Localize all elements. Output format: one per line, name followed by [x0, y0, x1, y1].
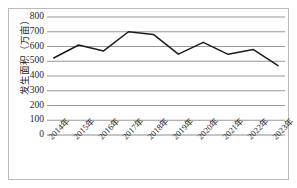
y-axis-tick-label: 100: [10, 115, 44, 125]
y-axis-tick-label: 300: [10, 86, 44, 96]
y-axis-tick-labels: 8007006005004003002001000: [8, 17, 44, 135]
y-axis-tick-label: 200: [10, 101, 44, 111]
y-axis-tick-label: 800: [10, 12, 44, 22]
series-polyline: [54, 32, 278, 66]
y-axis-tick-label: 600: [10, 42, 44, 52]
y-axis-tick-label: 700: [10, 27, 44, 37]
x-axis-tick-labels: 2014年2015年2016年2017年2018年2019年2020年2021年…: [47, 135, 285, 185]
y-axis-tick-label: 500: [10, 56, 44, 66]
chart-container: 发生面积（万亩） 8007006005004003002001000 2014年…: [0, 0, 297, 188]
y-axis-tick-label: 0: [10, 130, 44, 140]
y-axis-tick-label: 400: [10, 71, 44, 81]
